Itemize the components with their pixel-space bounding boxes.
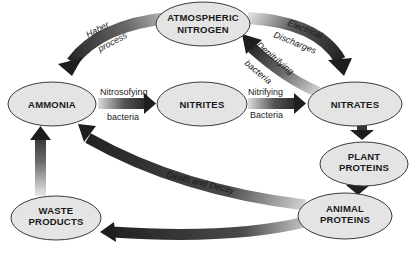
node-waste-products: WASTE PRODUCTS (11, 196, 101, 240)
node-atmospheric-nitrogen: ATMOSPHERIC NITROGEN (156, 2, 250, 46)
arrow-waste-to-ammonia (30, 126, 51, 196)
node-nitrates: NITRATES (308, 82, 402, 126)
node-plant-proteins: PLANT PROTEINS (320, 142, 408, 186)
nitrogen-cycle-diagram: ATMOSPHERIC NITROGEN AMMONIA NITRITES NI… (0, 0, 420, 255)
label-nitrosofying: Nitrosofying (100, 87, 148, 97)
label-nitrifying-bacteria: Bacteria (250, 110, 283, 120)
svg-text:PROTEINS: PROTEINS (339, 162, 389, 173)
svg-text:PRODUCTS: PRODUCTS (29, 216, 84, 227)
svg-text:ANIMAL: ANIMAL (326, 203, 364, 214)
arrow-animal-to-waste (100, 222, 305, 242)
label-nitrosofying-bacteria: bacteria (107, 112, 139, 122)
svg-text:NITRATES: NITRATES (331, 99, 379, 110)
node-ammonia: AMMONIA (8, 82, 96, 126)
arrow-death-and-decay (78, 124, 305, 205)
svg-text:NITRITES: NITRITES (180, 99, 225, 110)
svg-text:NITROGEN: NITROGEN (177, 24, 229, 35)
node-animal-proteins: ANIMAL PROTEINS (298, 193, 392, 239)
svg-text:PROTEINS: PROTEINS (320, 214, 370, 225)
node-nitrites: NITRITES (157, 82, 247, 126)
svg-text:ATMOSPHERIC: ATMOSPHERIC (167, 12, 239, 23)
label-nitrifying: Nitrifying (248, 87, 283, 97)
svg-text:PLANT: PLANT (348, 151, 381, 162)
svg-text:WASTE: WASTE (39, 205, 74, 216)
svg-text:AMMONIA: AMMONIA (28, 99, 76, 110)
